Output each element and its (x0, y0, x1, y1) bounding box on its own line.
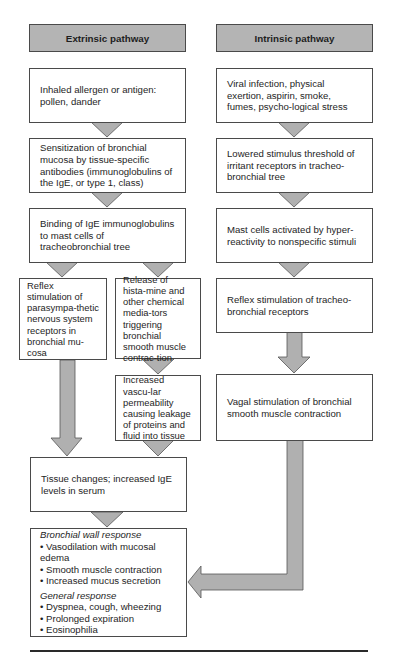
intrinsic-step-lowered-threshold: Lowered stimulus threshold of irritant r… (216, 138, 373, 193)
arrow-down-icon (142, 440, 174, 456)
arrow-down-icon (46, 262, 78, 277)
intrinsic-pathway-header: Intrinsic pathway (216, 24, 373, 52)
step-text: Mast cells activated by hyper-reactivity… (227, 224, 362, 247)
step-text: Lowered stimulus threshold of irritant r… (227, 148, 362, 183)
intrinsic-step-triggers: Viral infection, physical exertion, aspi… (216, 68, 373, 123)
long-arrow-down-icon (51, 360, 82, 456)
intrinsic-step-mast-cells: Mast cells activated by hyper-reactivity… (216, 208, 373, 263)
step-text: Increased vascu-lar permeability causing… (123, 374, 193, 441)
general-response-item: Eosinophilia (40, 624, 177, 636)
arrow-down-icon (91, 192, 123, 207)
extrinsic-step-sensitization: Sensitization of bronchial mucosa by tis… (29, 138, 186, 193)
step-text: Tissue changes; increased IgE levels in … (41, 473, 176, 496)
arrow-down-icon (278, 262, 310, 277)
extrinsic-pathway-header: Extrinsic pathway (29, 24, 186, 52)
extrinsic-step-vascular-permeability: Increased vascu-lar permeability causing… (115, 375, 201, 441)
step-text: Sensitization of bronchial mucosa by tis… (40, 142, 175, 188)
step-text: Release of hista-mine and other chemical… (123, 274, 193, 364)
arrow-down-icon (91, 512, 123, 527)
bronchial-response-item: Increased mucus secretion (40, 575, 177, 587)
step-text: Viral infection, physical exertion, aspi… (227, 78, 362, 113)
intrinsic-step-reflex-stimulation: Reflex stimulation of tracheo-bronchial … (216, 278, 373, 333)
step-text: Binding of IgE immunoglobulins to mast c… (40, 218, 175, 253)
extrinsic-branch-reflex-parasympathetic: Reflex stimulation of parasympa-thetic n… (19, 278, 107, 360)
arrow-down-icon (91, 122, 123, 137)
outcome-response-box: Bronchial wall response Vasodilation wit… (30, 528, 187, 637)
bronchial-response-item: Smooth muscle contraction (40, 564, 177, 576)
intrinsic-step-vagal-stimulation: Vagal stimulation of bronchial smooth mu… (216, 374, 373, 441)
bronchial-response-title: Bronchial wall response (40, 529, 177, 541)
general-response-item: Dyspnea, cough, wheezing (40, 601, 177, 613)
bronchial-response-item: Vasodilation with mucosal edema (40, 541, 177, 564)
general-response-item: Prolonged expiration (40, 613, 177, 625)
arrow-down-icon (278, 192, 310, 207)
step-text: Vagal stimulation of bronchial smooth mu… (227, 396, 362, 419)
bottom-divider-rule (30, 650, 368, 652)
step-text: Inhaled allergen or antigen: pollen, dan… (40, 84, 175, 107)
step-text: Reflex stimulation of parasympa-thetic n… (27, 280, 99, 358)
extrinsic-step-ige-binding: Binding of IgE immunoglobulins to mast c… (29, 208, 186, 263)
extrinsic-branch-histamine-release: Release of hista-mine and other chemical… (115, 278, 201, 359)
general-response-title: General response (40, 590, 177, 602)
extrinsic-step-allergen: Inhaled allergen or antigen: pollen, dan… (29, 68, 186, 123)
step-text: Reflex stimulation of tracheo-bronchial … (227, 294, 362, 317)
step-tissue-changes: Tissue changes; increased IgE levels in … (30, 457, 187, 512)
block-arrow-down-icon (278, 332, 310, 373)
bent-arrow-left-icon (188, 440, 303, 598)
arrow-down-icon (278, 122, 310, 137)
